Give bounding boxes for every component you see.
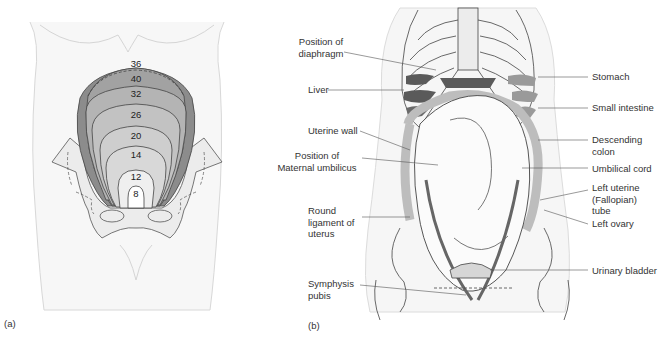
week-label-12: 12 [121,171,151,182]
week-label-36: 36 [121,58,151,69]
label-descending-colon: Descending colon [592,134,642,157]
label-stomach: Stomach [592,71,630,83]
panel-b-pregnancy-anatomy: Position of diaphragm Liver Uterine wall… [250,0,671,346]
label-fallopian-tube: Left uterine (Fallopian) tube [592,182,640,217]
panel-b-label: (b) [308,320,320,331]
label-small-intestine: Small intestine [592,102,654,114]
label-diaphragm: Position of diaphragm [286,36,356,59]
week-label-40: 40 [121,73,151,84]
panel-a-label: (a) [4,318,16,329]
label-urinary-bladder: Urinary bladder [592,265,657,277]
label-left-ovary: Left ovary [592,218,634,230]
label-umbilical-cord: Umbilical cord [592,163,652,175]
week-label-14: 14 [121,149,151,160]
label-liver: Liver [308,84,329,96]
label-symphysis-pubis: Symphysis pubis [308,278,354,301]
week-label-32: 32 [121,88,151,99]
week-label-8: 8 [121,188,151,199]
label-uterine-wall: Uterine wall [308,125,358,137]
label-round-ligament: Round ligament of uterus [308,205,354,240]
panel-a-fundal-height: 36 40 32 26 20 14 12 8 (a) [0,0,250,346]
label-maternal-umbilicus: Position of Maternal umbilicus [270,150,364,173]
week-label-20: 20 [121,130,151,141]
week-label-26: 26 [121,109,151,120]
